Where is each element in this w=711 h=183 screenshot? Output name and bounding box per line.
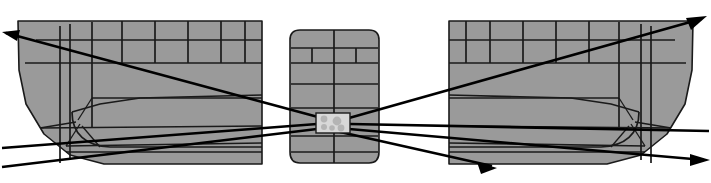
center-module <box>290 30 379 163</box>
target-blob-2 <box>321 124 327 130</box>
central-target-element <box>316 113 350 133</box>
hull-ray-diagram: Mirrored hull cross-section ray trace di… <box>0 0 711 183</box>
target-blob-4 <box>338 125 345 132</box>
target-blob-1 <box>321 116 328 123</box>
target-blob-3 <box>333 117 342 126</box>
right-hull-section <box>449 21 693 164</box>
target-blob-5 <box>329 125 335 131</box>
right-hull-outline <box>449 21 693 164</box>
diagram-root: Mirrored hull cross-section ray trace di… <box>0 0 711 183</box>
